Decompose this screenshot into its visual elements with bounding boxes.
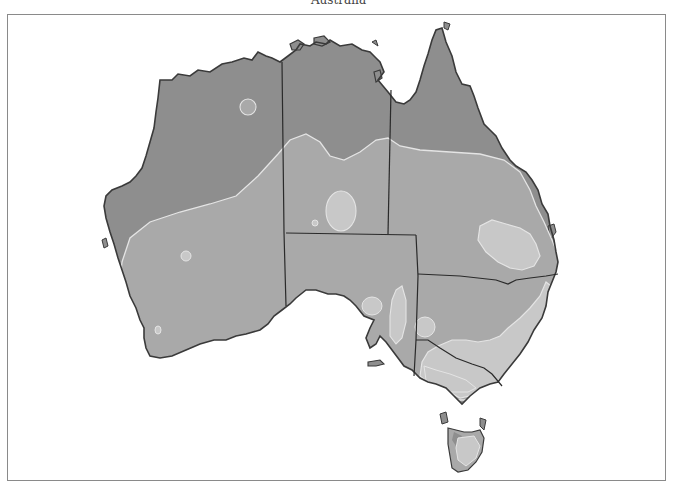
- island: [444, 22, 450, 30]
- island: [102, 238, 108, 248]
- zone-light-spot: [240, 99, 256, 115]
- zone-light-spot: [326, 191, 356, 231]
- island: [480, 418, 486, 430]
- zone-light-spot: [312, 220, 318, 226]
- zone-light-spot: [362, 297, 382, 315]
- zone-light-spot: [415, 317, 435, 337]
- island: [372, 40, 378, 46]
- island: [440, 412, 448, 424]
- australia-map: [0, 0, 677, 490]
- island: [368, 360, 384, 366]
- zone-light-spot: [155, 326, 161, 334]
- zone-light-spot: [181, 251, 191, 261]
